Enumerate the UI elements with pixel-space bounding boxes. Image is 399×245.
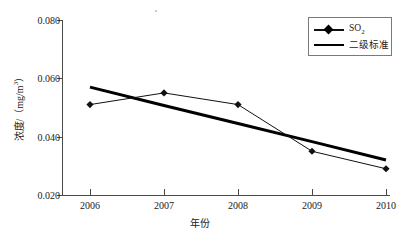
data-point-marker — [160, 89, 167, 96]
data-point-marker — [86, 101, 93, 108]
diamond-line-icon — [314, 24, 344, 36]
artifact-speck — [155, 10, 157, 12]
legend-label-so2-sub: 2 — [361, 27, 365, 35]
thick-line-icon — [314, 39, 344, 51]
data-point-marker — [382, 165, 389, 172]
legend-item-so2: SO2 — [309, 22, 391, 37]
legend-label-standard: 二级标准 — [344, 40, 389, 50]
data-point-marker — [234, 101, 241, 108]
data-point-marker — [308, 148, 315, 155]
legend-item-standard: 二级标准 — [309, 37, 391, 52]
series-markers-so2 — [86, 89, 389, 172]
chart-legend: SO2 二级标准 — [308, 17, 392, 56]
legend-label-so2-base: SO — [349, 23, 361, 33]
chart-container: 0.080 0.060 0.040 0.020 2006 2007 2008 2… — [0, 0, 399, 245]
legend-label-so2: SO2 — [344, 23, 365, 37]
